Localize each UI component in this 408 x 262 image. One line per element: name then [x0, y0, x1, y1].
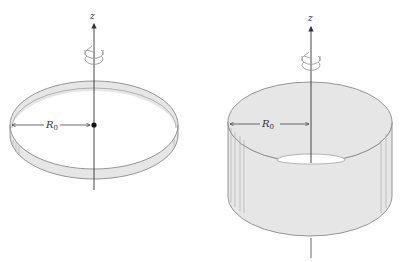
cylinder-panel: z R0	[228, 13, 392, 258]
ring-panel: z R0	[10, 11, 178, 190]
radius-label: R0	[45, 119, 58, 132]
figure-canvas: z R0	[0, 0, 408, 262]
z-axis-label: z	[307, 13, 313, 23]
cylinder-top-rim	[228, 82, 392, 162]
z-axis-label: z	[89, 11, 95, 21]
center-point	[91, 122, 96, 127]
